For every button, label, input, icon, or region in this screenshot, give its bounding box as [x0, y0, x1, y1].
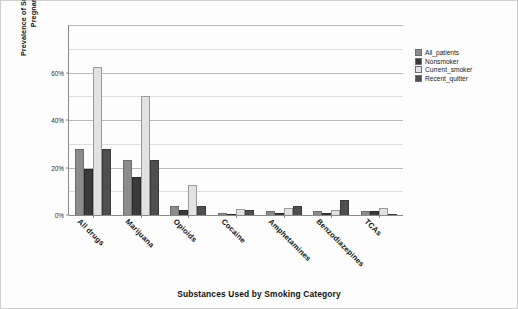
legend-label: Recent_quitter — [425, 75, 468, 82]
legend-label: Nonsmoker — [425, 58, 459, 65]
bar — [284, 208, 293, 215]
x-tick-label-tcas: TCAs — [363, 217, 384, 238]
bar — [170, 206, 179, 216]
bar — [313, 211, 322, 215]
bar — [293, 206, 302, 216]
bar — [379, 208, 388, 215]
bar — [322, 213, 331, 215]
y-axis-title: Prevalence of Substance Used by Pregnant… — [19, 0, 45, 57]
chart-figure: Prevalence of Substance Used by Pregnant… — [0, 0, 518, 309]
x-tick-label-amphetamines: Amphetamines — [267, 217, 313, 263]
legend-item-current_smoker[interactable]: Current_smoker — [415, 66, 472, 73]
bar — [179, 210, 188, 215]
y-tick-label-20: 20% — [51, 164, 69, 171]
bar — [331, 210, 340, 215]
plot-area: 60% 40% 20% 0% — [68, 25, 403, 215]
bar — [188, 185, 197, 215]
legend-swatch-icon — [415, 66, 422, 73]
legend-item-recent_quitter[interactable]: Recent_quitter — [415, 75, 472, 82]
legend-label: All_patients — [425, 49, 459, 56]
x-tick-label-all-drugs: All drugs — [76, 217, 107, 248]
chart-legend: All_patientsNonsmokerCurrent_smokerRecen… — [415, 49, 472, 82]
x-tick-labels: All drugsMarijuanaOpioidsCocaineAmphetam… — [68, 217, 403, 287]
legend-swatch-icon — [415, 75, 422, 82]
legend-item-nonsmoker[interactable]: Nonsmoker — [415, 58, 472, 65]
bar — [197, 206, 206, 216]
bar — [93, 67, 102, 215]
bar — [123, 160, 132, 215]
x-tick-label-benzodiazepines: Benzodiazepines — [315, 217, 367, 269]
bar — [132, 177, 141, 215]
bar — [84, 169, 93, 215]
bar — [361, 211, 370, 215]
bar — [340, 200, 349, 215]
bar — [370, 211, 379, 215]
x-tick-label-opioids: Opioids — [171, 217, 198, 244]
bar — [266, 211, 275, 215]
bar — [75, 149, 84, 216]
bar — [141, 96, 150, 215]
bar — [245, 210, 254, 215]
y-tick-label-60: 60% — [51, 69, 69, 76]
bar-group — [69, 25, 117, 215]
bar-group — [117, 25, 165, 215]
bar — [150, 160, 159, 215]
legend-swatch-icon — [415, 49, 422, 56]
bar-group — [212, 25, 260, 215]
legend-item-all_patients[interactable]: All_patients — [415, 49, 472, 56]
bar — [218, 213, 227, 215]
y-tick-label-40: 40% — [51, 117, 69, 124]
bar-group — [355, 25, 403, 215]
bar-group — [164, 25, 212, 215]
bar — [102, 149, 111, 216]
bar — [227, 214, 236, 215]
y-tick-label-0: 0% — [55, 212, 69, 219]
x-tick-label-marijuana: Marijuana — [123, 217, 155, 249]
legend-label: Current_smoker — [425, 66, 472, 73]
x-tick-label-cocaine: Cocaine — [219, 217, 247, 245]
bar — [388, 214, 397, 215]
x-axis-title: Substances Used by Smoking Category — [1, 289, 517, 299]
bar-groups — [69, 25, 403, 215]
bar — [275, 213, 284, 215]
bar — [236, 209, 245, 215]
legend-swatch-icon — [415, 58, 422, 65]
bar-group — [260, 25, 308, 215]
bar-group — [308, 25, 356, 215]
